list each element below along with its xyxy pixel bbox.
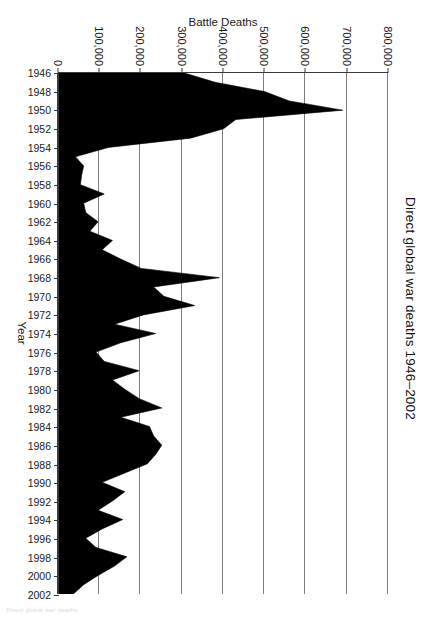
x-tick-mark — [54, 185, 59, 186]
x-tick-mark — [54, 129, 59, 130]
x-tick-mark — [54, 166, 59, 167]
x-tick-mark — [54, 73, 59, 74]
rotated-figure-wrapper: Direct global war deaths 1946–2002 Battl… — [0, 0, 432, 617]
x-axis-title: Year — [16, 72, 28, 594]
x-tick-label: 1960 — [28, 198, 51, 210]
x-tick-label: 1992 — [28, 496, 51, 508]
x-tick-label: 1996 — [28, 533, 51, 545]
y-tick-label: 600,000 — [300, 26, 312, 66]
x-tick-mark — [54, 110, 59, 111]
x-tick-mark — [54, 595, 59, 596]
x-tick-mark — [54, 371, 59, 372]
x-tick-label: 1982 — [28, 403, 51, 415]
x-tick-mark — [54, 558, 59, 559]
x-tick-label: 1948 — [28, 86, 51, 98]
plot-area: 0100,000200,000300,000400,000500,000600,… — [58, 72, 388, 594]
x-tick-label: 1994 — [28, 514, 51, 526]
x-tick-label: 1976 — [28, 347, 51, 359]
x-tick-label: 1974 — [28, 328, 51, 340]
y-tick-label: 500,000 — [258, 26, 270, 66]
y-tick-label: 800,000 — [382, 26, 394, 66]
x-tick-mark — [54, 92, 59, 93]
x-tick-mark — [54, 427, 59, 428]
x-tick-mark — [54, 390, 59, 391]
y-tick-mark — [181, 68, 182, 73]
x-tick-mark — [54, 465, 59, 466]
x-tick-label: 1988 — [28, 459, 51, 471]
x-tick-label: 1984 — [28, 421, 51, 433]
x-tick-label: 1966 — [28, 253, 51, 265]
x-tick-mark — [54, 148, 59, 149]
x-tick-label: 1950 — [28, 104, 51, 116]
x-tick-mark — [54, 353, 59, 354]
x-tick-mark — [54, 576, 59, 577]
x-tick-label: 1986 — [28, 440, 51, 452]
x-tick-label: 1962 — [28, 216, 51, 228]
y-tick-mark — [140, 68, 141, 73]
x-tick-mark — [54, 297, 59, 298]
y-tick-mark — [388, 68, 389, 73]
y-tick-label: 700,000 — [341, 26, 353, 66]
x-tick-mark — [54, 204, 59, 205]
x-tick-mark — [54, 222, 59, 223]
x-tick-mark — [54, 520, 59, 521]
x-tick-label: 1970 — [28, 291, 51, 303]
x-tick-label: 1968 — [28, 272, 51, 284]
x-tick-label: 1964 — [28, 235, 51, 247]
x-tick-mark — [54, 241, 59, 242]
x-tick-label: 2000 — [28, 570, 51, 582]
scan-artifact-text: Direct global war deaths — [6, 607, 78, 613]
y-tick-label: 200,000 — [135, 26, 147, 66]
y-tick-mark — [305, 68, 306, 73]
chart-page: Direct global war deaths 1946–2002 Battl… — [0, 0, 432, 617]
y-tick-label: 100,000 — [93, 26, 105, 66]
x-tick-label: 2002 — [28, 589, 51, 601]
x-tick-mark — [54, 502, 59, 503]
y-tick-mark — [99, 68, 100, 73]
x-tick-label: 1958 — [28, 179, 51, 191]
x-tick-mark — [54, 409, 59, 410]
x-tick-mark — [54, 539, 59, 540]
chart-figure: Direct global war deaths 1946–2002 Battl… — [0, 0, 432, 617]
x-axis-title-label: Year — [16, 321, 28, 344]
y-tick-mark — [346, 68, 347, 73]
x-tick-label: 1990 — [28, 477, 51, 489]
x-tick-mark — [54, 446, 59, 447]
page-title: Direct global war deaths 1946–2002 — [403, 0, 418, 617]
y-tick-label: 0 — [52, 60, 64, 66]
x-tick-mark — [54, 278, 59, 279]
x-tick-mark — [54, 315, 59, 316]
x-tick-label: 1972 — [28, 309, 51, 321]
x-tick-label: 1954 — [28, 142, 51, 154]
x-tick-label: 1952 — [28, 123, 51, 135]
x-tick-label: 1978 — [28, 365, 51, 377]
x-tick-label: 1956 — [28, 160, 51, 172]
area-series-war-deaths — [59, 73, 388, 594]
x-tick-mark — [54, 334, 59, 335]
y-tick-mark — [223, 68, 224, 73]
y-tick-label: 300,000 — [176, 26, 188, 66]
x-tick-label: 1980 — [28, 384, 51, 396]
x-tick-label: 1998 — [28, 552, 51, 564]
x-tick-mark — [54, 483, 59, 484]
x-tick-label: 1946 — [28, 67, 51, 79]
y-tick-label: 400,000 — [217, 26, 229, 66]
x-tick-mark — [54, 259, 59, 260]
y-tick-mark — [264, 68, 265, 73]
